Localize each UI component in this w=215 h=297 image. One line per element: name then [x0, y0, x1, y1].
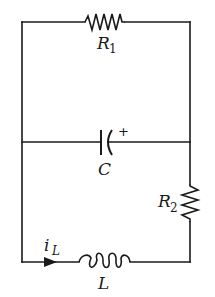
inductor-label: L: [97, 273, 109, 293]
resistor-r1: [85, 14, 125, 30]
resistor-r1-icon: [85, 14, 125, 30]
current-label: i: [44, 235, 49, 255]
r1-label-subscript: 1: [109, 42, 117, 56]
current-label-subscript: L: [51, 244, 60, 258]
current-arrow-icon: [44, 257, 57, 267]
resistor-r2: [182, 184, 198, 222]
r1-label: R: [96, 33, 110, 53]
resistor-r2-icon: [182, 184, 198, 222]
r2-label: R: [157, 191, 171, 211]
inductor-icon: [79, 253, 130, 267]
inductor-l: [79, 253, 130, 267]
capacitor-label: C: [98, 159, 111, 179]
capacitor-polarity-plus: +: [118, 124, 129, 139]
circuit-diagram: R 1 + C R 2 i L L: [0, 0, 215, 297]
r2-label-subscript: 2: [170, 201, 178, 215]
